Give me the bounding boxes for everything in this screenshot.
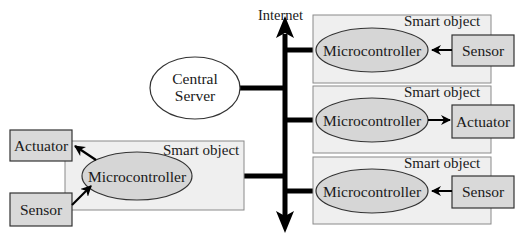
microcontroller-1-label: Microcontroller xyxy=(316,43,428,59)
microcontroller-4-label: Microcontroller xyxy=(82,169,192,185)
actuator-4-label: Actuator xyxy=(10,138,72,154)
smart-object-2-label: Smart object xyxy=(404,85,480,100)
sensor-3-label: Sensor xyxy=(452,184,514,200)
smart-object-4-label: Smart object xyxy=(163,143,239,158)
microcontroller-3-label: Microcontroller xyxy=(316,184,428,200)
microcontroller-2-label: Microcontroller xyxy=(316,113,428,129)
internet-label: Internet xyxy=(258,8,303,23)
actuator-2-label: Actuator xyxy=(452,114,514,130)
central-server-label-line1: Central xyxy=(150,71,240,87)
sensor-1-label: Sensor xyxy=(452,43,514,59)
smart-object-1-label: Smart object xyxy=(404,14,480,29)
diagram-canvas xyxy=(0,0,526,241)
smart-object-3-label: Smart object xyxy=(404,156,480,171)
central-server-label-line2: Server xyxy=(150,88,240,104)
iot-architecture-diagram: Internet Central Server Smart object Mic… xyxy=(0,0,526,241)
sensor-4-label: Sensor xyxy=(10,202,72,218)
